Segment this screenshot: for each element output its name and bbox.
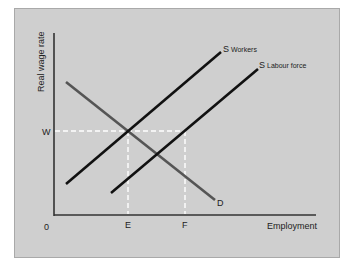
demand-curve [66, 82, 215, 200]
demand-label: D [217, 198, 224, 208]
supply-workers-sub-label: Workers [231, 46, 257, 53]
supply-labour-force-s-label: S [259, 60, 265, 70]
w-tick-label: W [42, 127, 51, 137]
f-tick-label: F [182, 220, 188, 230]
origin-label: 0 [44, 222, 49, 232]
y-axis-label: Real wage rate [36, 31, 46, 92]
supply-workers-s-label: S [223, 44, 229, 54]
x-axis-label: Employment [267, 221, 318, 231]
supply-labour-force-sub-label: Labour force [267, 62, 306, 69]
e-tick-label: E [125, 220, 131, 230]
